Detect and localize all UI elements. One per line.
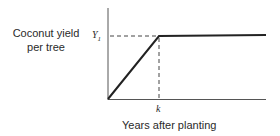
x-axis-label: Years after planting bbox=[122, 119, 216, 131]
k-tick-label: k bbox=[156, 103, 160, 114]
yield-line bbox=[108, 35, 266, 99]
chart-plot bbox=[0, 0, 280, 136]
y-axis-label-line2: per tree bbox=[6, 40, 86, 54]
y-axis-label-line1: Coconut yield bbox=[6, 26, 86, 40]
y1-tick-label: Y1 bbox=[92, 29, 101, 43]
y-axis-label: Coconut yield per tree bbox=[6, 26, 86, 54]
y1-tick-sub: 1 bbox=[98, 35, 102, 43]
